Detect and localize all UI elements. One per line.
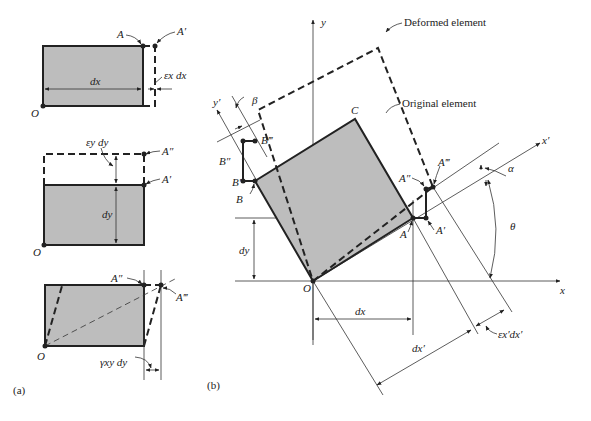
label-deformed-element: Deformed element — [404, 16, 486, 28]
label-b-A-prime: A′ — [435, 224, 446, 236]
label-b-C: C — [351, 104, 359, 116]
strain-diagram: A A′ dx εx dx O εy dy A″ A′ dy O A″ A‴ — [0, 0, 591, 421]
label-b-dxprime: dx′ — [412, 342, 425, 354]
label-b-A-tprime: A‴ — [437, 156, 451, 168]
caption-b: (b) — [207, 379, 220, 392]
label-a3-A-dprime: A″ — [110, 272, 123, 284]
label-b-O: O — [303, 282, 311, 294]
label-original-element: Original element — [402, 97, 476, 109]
label-a3-A-tprime: A‴ — [175, 291, 189, 303]
label-a1-A: A — [116, 28, 124, 40]
label-b-strain: εx′dx′ — [498, 328, 523, 340]
label-b-beta: β — [251, 94, 258, 106]
label-a3-O: O — [37, 350, 45, 362]
label-b-alpha: α — [508, 162, 514, 174]
label-a2-dy: dy — [102, 208, 113, 220]
label-b-dy: dy — [239, 244, 250, 256]
label-a1-strain: εx dx — [164, 69, 186, 81]
label-b-B-dprime: B″ — [219, 155, 231, 167]
label-a1-O: O — [31, 107, 39, 119]
panel-a-normal-strain-y — [42, 148, 161, 248]
panel-a-normal-strain-x — [41, 32, 176, 109]
label-b-B-prime: B′ — [232, 176, 242, 188]
caption-a: (a) — [13, 384, 26, 397]
label-b-A-dprime: A″ — [398, 172, 411, 184]
label-a2-A-prime: A′ — [161, 173, 172, 185]
label-b-A: A — [399, 228, 407, 240]
label-b-axis-x: x — [559, 284, 565, 296]
label-b-axis-yprime: y′ — [212, 96, 221, 108]
label-a2-O: O — [33, 246, 41, 258]
label-a3-shear: γxy dy — [100, 356, 127, 368]
label-a2-strain: εy dy — [86, 136, 108, 148]
label-a1-A-prime: A′ — [176, 25, 187, 37]
label-b-dx: dx — [355, 305, 366, 317]
label-b-axis-y: y — [320, 16, 326, 28]
label-b-B-tprime: B‴ — [261, 134, 274, 146]
label-a1-dx: dx — [90, 75, 101, 87]
label-b-B: B — [236, 193, 243, 205]
label-b-theta: θ — [510, 220, 516, 232]
label-b-axis-xprime: x′ — [541, 134, 550, 146]
label-a2-A-dprime: A″ — [161, 145, 174, 157]
